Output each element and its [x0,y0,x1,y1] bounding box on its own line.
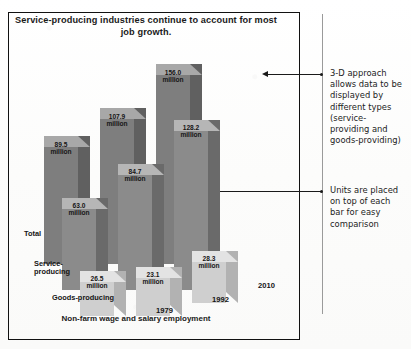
bar-value-label: 107.9million [100,113,134,127]
bar-side [96,198,108,279]
year-label-2010: 2010 [258,281,275,290]
annotation-2-text: Units are placed on top of each bar for … [330,185,404,230]
chart-plot-area: 89.5million 107.9million 156.0million [8,12,300,340]
bar-value-label: 89.5million [44,141,78,155]
series-label-goods-producing: Goods-producing [52,294,114,302]
bar-value-label: 23.1million [136,271,170,285]
annotation-guide-line [322,14,323,314]
bar-side-cap [114,305,126,316]
bar-value-label: 28.3million [192,255,226,269]
bar-value-label: 128.2million [174,124,208,138]
year-label-1979: 1979 [156,306,173,315]
annotation-1-bullet [320,73,323,76]
screenshot-stage: Service-producing industries continue to… [0,0,411,349]
bar-value-label: 63.0million [62,202,96,216]
annotation-1-arrowhead [262,71,268,77]
bar-value-label: 26.5million [80,275,114,289]
series-label-service-producing: Service-producing [34,260,70,277]
series-label-total: Total [24,230,41,238]
annotation-1-leader [268,74,322,75]
bar-value-label: 156.0million [156,69,190,83]
year-label-1992: 1992 [212,295,229,304]
bar-value-label: 84.7million [118,168,152,182]
annotation-1-text: 3-D approach allows data to be displayed… [330,68,404,146]
annotation-2-bullet [320,190,323,193]
bar-side [152,164,164,279]
